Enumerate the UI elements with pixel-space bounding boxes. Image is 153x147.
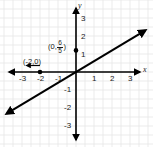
y-tick-1: 1 xyxy=(81,51,85,59)
y-tick-3: 3 xyxy=(81,15,85,23)
point-label-y-close: ) xyxy=(63,42,66,51)
y-tick-neg3: -3 xyxy=(64,122,71,130)
x-tick-neg2: -2 xyxy=(37,75,44,83)
x-tick-1: 1 xyxy=(92,75,96,83)
point-label-y-open: (0, xyxy=(48,42,57,51)
x-tick-2: 2 xyxy=(110,75,114,83)
labels-layer: x y -3 -2 -1 1 2 3 3 2 1 -1 -2 -3 (-2,0)… xyxy=(0,0,153,147)
x-tick-neg1: -1 xyxy=(55,75,62,83)
y-tick-neg2: -2 xyxy=(64,104,71,112)
y-tick-2: 2 xyxy=(81,33,85,41)
x-axis-label: x xyxy=(143,66,147,74)
point-label-y-intercept: (0,65) xyxy=(48,40,66,54)
x-tick-neg3: -3 xyxy=(19,75,26,83)
y-tick-neg1: -1 xyxy=(64,86,71,94)
coordinate-plane-graph: x y -3 -2 -1 1 2 3 3 2 1 -1 -2 -3 (-2,0)… xyxy=(0,0,153,147)
y-axis-label: y xyxy=(78,2,82,10)
x-tick-3: 3 xyxy=(128,75,132,83)
point-label-x-intercept: (-2,0) xyxy=(23,58,41,66)
